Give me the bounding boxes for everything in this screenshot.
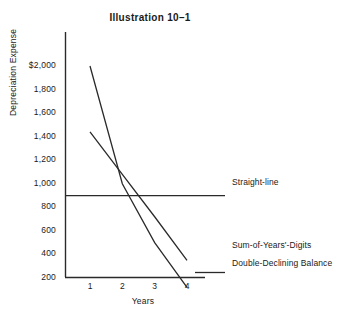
y-tick-label: 1,200 — [8, 154, 56, 164]
y-tick-label: 400 — [8, 248, 56, 258]
series-label-1: Sum-of-Years'-Digits — [232, 240, 311, 250]
series-label-0: Straight-line — [232, 177, 279, 187]
y-tick-label: $2,000 — [8, 60, 56, 70]
x-tick-label: 1 — [80, 281, 100, 291]
chart-figure: Illustration 10–1 Depreciation Expense Y… — [0, 0, 363, 321]
y-tick-label: 1,400 — [8, 131, 56, 141]
series-label-2: Double-Declining Balance — [232, 258, 332, 268]
y-tick-label: 1,800 — [8, 84, 56, 94]
y-tick-label: 600 — [8, 225, 56, 235]
series-line-2 — [90, 66, 187, 287]
y-tick-label: 1,600 — [8, 107, 56, 117]
y-tick-label: 800 — [8, 201, 56, 211]
x-tick-label: 2 — [112, 281, 132, 291]
y-tick-label: 200 — [8, 272, 56, 282]
x-tick-label: 3 — [145, 281, 165, 291]
y-tick-label: 1,000 — [8, 178, 56, 188]
series-lines — [65, 66, 225, 287]
x-tick-label: 4 — [177, 281, 197, 291]
axis-lines — [65, 32, 205, 278]
